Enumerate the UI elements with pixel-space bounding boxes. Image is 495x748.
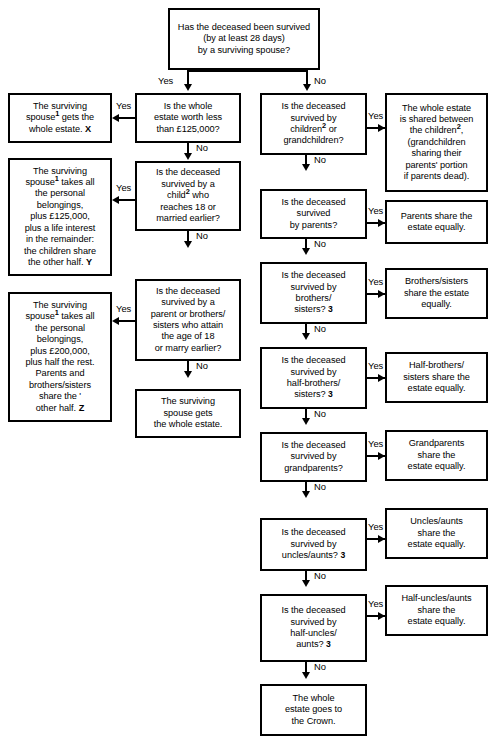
answer-children-line4: (grandchildren bbox=[407, 137, 465, 147]
parents-line3: by parents? bbox=[290, 220, 337, 230]
connector-parent-siblings-yes bbox=[119, 320, 135, 322]
answer-z-tag: Z bbox=[79, 403, 85, 413]
answer-siblings-line1: Brothers/sisters bbox=[405, 276, 468, 286]
answer-y-line8: the children share bbox=[24, 246, 96, 256]
label-grandparents-no: No bbox=[314, 482, 326, 492]
siblings-line2: survived by bbox=[291, 282, 337, 292]
label-uncles-aunts-no: No bbox=[314, 571, 326, 581]
parent-siblings-line1: Is the deceased bbox=[156, 286, 220, 296]
answer-half-uncles-aunts-line1: Half-uncles/aunts bbox=[401, 593, 471, 603]
answer-uncles-aunts-line3: estate equally. bbox=[408, 539, 466, 549]
answer-children-line3-pre: the children bbox=[410, 125, 457, 135]
answer-children-line5: sharing their bbox=[412, 148, 462, 158]
answer-y-line6: plus a life interest bbox=[25, 223, 96, 233]
answer-crown-line2: estate goes to bbox=[285, 704, 342, 714]
parent-siblings-line4: sisters who attain bbox=[153, 320, 223, 330]
arrow-parent-siblings-yes bbox=[112, 317, 119, 325]
arrow-grandparents-yes bbox=[378, 452, 385, 460]
label-child-18-yes: Yes bbox=[116, 183, 131, 193]
node-half-siblings-question: Is the deceased survived by half-brother… bbox=[260, 347, 367, 409]
node-answer-crown: The whole estate goes to the Crown. bbox=[260, 684, 367, 736]
arrow-parents-yes bbox=[378, 219, 385, 227]
label-estate-value-no: No bbox=[196, 143, 208, 153]
arrow-root-yes bbox=[184, 84, 192, 91]
parent-siblings-line2: survived by a bbox=[161, 297, 214, 307]
answer-children-line1: The whole estate bbox=[402, 103, 471, 113]
answer-z-line2-post: takes all bbox=[59, 311, 95, 321]
label-children-yes: Yes bbox=[368, 111, 383, 121]
arrow-children-yes bbox=[378, 124, 385, 132]
label-siblings-yes: Yes bbox=[368, 277, 383, 287]
children-line4: grandchildren? bbox=[283, 135, 343, 145]
root-line1: Has the deceased been survived bbox=[178, 22, 310, 32]
answer-z-line9: share the ' bbox=[39, 391, 81, 401]
half-siblings-line2: survived by bbox=[291, 367, 337, 377]
answer-z-line10: other half. bbox=[36, 403, 76, 413]
half-siblings-line1: Is the deceased bbox=[281, 355, 345, 365]
arrow-half-siblings-yes bbox=[378, 374, 385, 382]
arrow-grandparents-no bbox=[302, 491, 310, 498]
node-half-uncles-aunts-question: Is the deceased survived by half-uncles/… bbox=[260, 594, 367, 662]
node-answer-siblings: Brothers/sisters share the estate equall… bbox=[385, 268, 488, 319]
answer-parents-line1: Parents share the bbox=[401, 211, 473, 221]
arrow-half-uncles-aunts-yes bbox=[378, 612, 385, 620]
estate-value-line2: estate worth less bbox=[154, 112, 222, 122]
footnote-ref-3: 3 bbox=[328, 304, 333, 314]
answer-z-line1: The surviving bbox=[33, 300, 87, 310]
node-uncles-aunts-question: Is the deceased survived by uncles/aunts… bbox=[260, 518, 367, 571]
label-half-siblings-yes: Yes bbox=[368, 361, 383, 371]
answer-z-line6: plus half the rest. bbox=[25, 357, 94, 367]
connector-root-split bbox=[187, 70, 308, 72]
child-18-line3-post: who bbox=[190, 190, 209, 200]
node-answer-spouse-whole-estate: The surviving spouse gets the whole esta… bbox=[135, 389, 241, 438]
arrow-parent-siblings-no bbox=[184, 371, 192, 378]
half-siblings-line3: half-brothers/ bbox=[287, 378, 340, 388]
answer-parents-line2: estate equally. bbox=[408, 222, 466, 232]
answer-z-line5: plus £200,000, bbox=[30, 346, 90, 356]
answer-siblings-line2: share the estate bbox=[404, 288, 469, 298]
arrow-child-18-no bbox=[184, 241, 192, 248]
parents-line1: Is the deceased bbox=[281, 197, 345, 207]
node-estate-value-question: Is the whole estate worth less than £125… bbox=[135, 93, 241, 143]
siblings-line1: Is the deceased bbox=[281, 270, 345, 280]
answer-y-line3: the personal bbox=[35, 188, 85, 198]
answer-y-line2-post: takes all bbox=[59, 177, 95, 187]
arrow-estate-value-no bbox=[184, 153, 192, 160]
footnote-ref-3: 3 bbox=[328, 389, 333, 399]
arrow-siblings-no bbox=[302, 333, 310, 340]
answer-z-line4: belongings, bbox=[37, 334, 83, 344]
answer-crown-line1: The whole bbox=[293, 693, 335, 703]
label-parent-siblings-no: No bbox=[196, 361, 208, 371]
child-18-line4: reaches 18 or bbox=[160, 202, 216, 212]
root-line3: by a surviving spouse? bbox=[198, 45, 290, 55]
answer-grandparents-line2: share the bbox=[418, 450, 456, 460]
footnote-ref-3: 3 bbox=[326, 639, 331, 649]
connector-child-18-yes bbox=[119, 199, 135, 201]
half-uncles-aunts-line4-pre: aunts? bbox=[296, 639, 326, 649]
children-line3-post: or bbox=[326, 124, 337, 134]
label-parents-no: No bbox=[314, 239, 326, 249]
child-18-line1: Is the deceased bbox=[156, 167, 220, 177]
estate-value-line1: Is the whole bbox=[164, 101, 212, 111]
node-child-18-question: Is the deceased survived by a child2 who… bbox=[135, 161, 241, 231]
answer-y-line5: plus £125,000, bbox=[30, 211, 90, 221]
answer-children-line6: parents' portion bbox=[405, 160, 467, 170]
parent-siblings-line3: parent or brothers/ bbox=[151, 309, 226, 319]
node-answer-spouse-y: The surviving spouse1 takes all the pers… bbox=[8, 158, 112, 276]
answer-children-line2: is shared between bbox=[400, 114, 474, 124]
answer-x-line2-post: gets the bbox=[59, 112, 94, 122]
children-line1: Is the deceased bbox=[281, 101, 345, 111]
child-18-line5: married earlier? bbox=[156, 213, 220, 223]
siblings-line4-pre: sisters? bbox=[294, 304, 328, 314]
answer-z-line7: Parents and bbox=[36, 368, 85, 378]
answer-x-tag: X bbox=[85, 124, 91, 134]
uncles-aunts-line3-pre: uncles/aunts? bbox=[282, 550, 341, 560]
half-uncles-aunts-line1: Is the deceased bbox=[281, 605, 345, 615]
node-root-question: Has the deceased been survived (by at le… bbox=[168, 8, 320, 70]
label-root-yes: Yes bbox=[158, 76, 173, 86]
label-half-uncles-aunts-no: No bbox=[314, 662, 326, 672]
answer-grandparents-line3: estate equally. bbox=[408, 461, 466, 471]
intestacy-flowchart: Has the deceased been survived (by at le… bbox=[0, 0, 495, 748]
answer-half-uncles-aunts-line2: share the bbox=[418, 605, 456, 615]
answer-z-line3: the personal bbox=[35, 323, 85, 333]
